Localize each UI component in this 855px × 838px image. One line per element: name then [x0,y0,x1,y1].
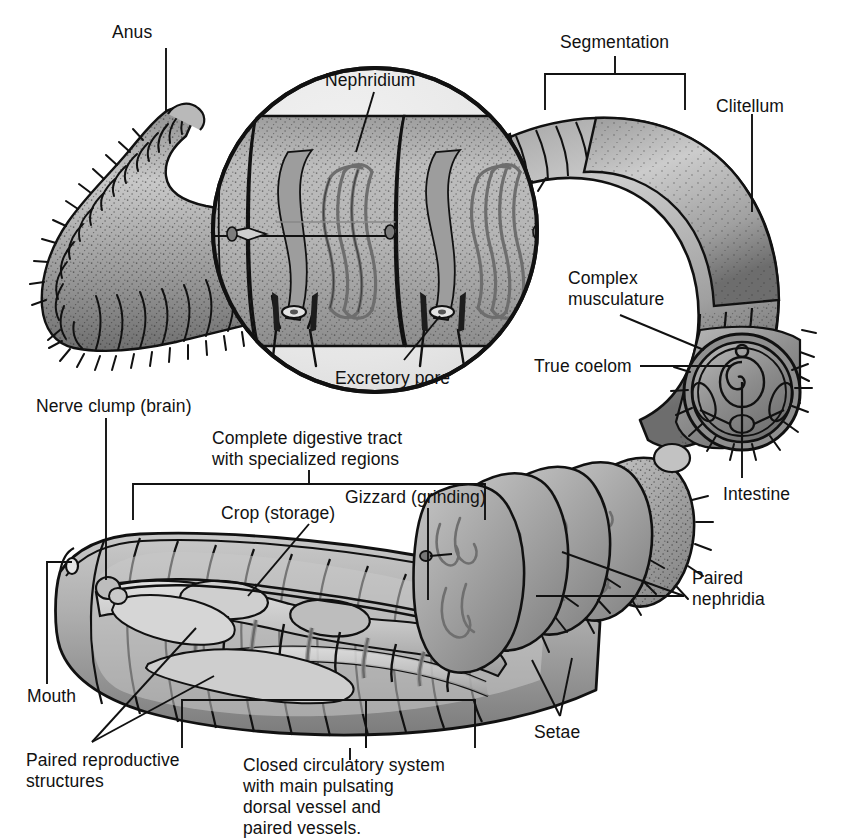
label-crop: Crop (storage) [221,503,335,524]
label-nerve-clump: Nerve clump (brain) [36,396,192,417]
label-segmentation: Segmentation [560,32,669,53]
label-complex-musculature-line1: Complex [568,268,638,289]
label-gizzard: Gizzard (grinding) [345,487,486,508]
label-paired-nephridia-line1: Paired [692,568,743,589]
label-anus: Anus [112,22,152,43]
label-paired-nephridia-line2: nephridia [692,589,765,610]
label-excretory-pore: Excretory pore [335,368,450,389]
label-mouth: Mouth [27,686,76,707]
label-nephridium: Nephridium [325,70,415,91]
label-paired-reproductive-line1: Paired reproductive [26,750,180,771]
label-circulatory-line4: paired vessels. [243,818,361,838]
label-digestive-tract-line1: Complete digestive tract [212,428,402,449]
label-setae: Setae [534,722,580,743]
label-true-coelom: True coelom [534,356,632,377]
label-paired-reproductive-line2: structures [26,771,104,792]
label-complex-musculature-line2: musculature [568,289,664,310]
label-circulatory-line1: Closed circulatory system [243,755,445,776]
label-circulatory-line2: with main pulsating [243,776,394,797]
label-intestine: Intestine [723,484,790,505]
earthworm-anatomy-illustration [0,0,855,838]
label-clitellum: Clitellum [716,96,784,117]
label-circulatory-line3: dorsal vessel and [243,797,381,818]
label-digestive-tract-line2: with specialized regions [212,449,399,470]
figure-canvas: Anus Nephridium Excretory pore Segmentat… [0,0,855,838]
